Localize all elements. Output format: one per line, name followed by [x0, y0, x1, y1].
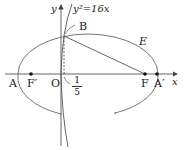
point-f — [143, 72, 147, 76]
point-a-label: A — [9, 78, 17, 89]
y-axis-label: y — [51, 4, 57, 14]
origin-label: O — [51, 78, 60, 89]
tick-numerator: 1 — [74, 75, 80, 85]
tick-one-fifth: 1 5 — [72, 76, 82, 97]
pointer-tick — [64, 77, 70, 84]
parabola-label: y²=16x — [73, 4, 109, 14]
pointer-b — [65, 25, 75, 34]
point-f-label: F — [141, 78, 149, 89]
point-f-prime-label: F′ — [27, 78, 37, 89]
ellipse-label: E — [139, 36, 147, 47]
point-f-prime — [29, 72, 33, 76]
point-a-prime-label: A′ — [154, 78, 164, 89]
point-a-prime — [155, 72, 159, 76]
parabola — [61, 4, 72, 147]
tick-denominator: 5 — [74, 87, 80, 97]
x-axis-label: x — [172, 77, 178, 87]
segment-bf — [64, 36, 145, 74]
geometry-diagram: y y²=16x B E A F′ O 1 5 F A′ x — [0, 0, 185, 150]
point-b-label: B — [79, 21, 87, 32]
diagram-canvas — [0, 0, 185, 150]
